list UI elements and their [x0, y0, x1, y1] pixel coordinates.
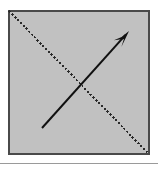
figure-root [0, 0, 158, 169]
diagram-canvas [0, 0, 158, 169]
